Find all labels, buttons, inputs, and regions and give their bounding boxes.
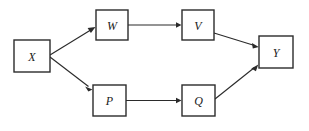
edge-v-to-y-arrowhead	[252, 43, 259, 49]
edge-w-to-v-arrowhead	[176, 22, 182, 27]
node-y[interactable]: Y	[259, 36, 293, 68]
edge-p-to-q	[126, 98, 182, 103]
node-w-label: W	[107, 19, 118, 33]
edge-q-to-y-line	[215, 68, 255, 100]
node-q-label: Q	[194, 94, 203, 108]
edge-q-to-y-arrowhead	[251, 65, 258, 72]
node-w[interactable]: W	[96, 10, 128, 40]
diagram-canvas: X W V Y P Q	[0, 0, 309, 131]
node-p-label: P	[105, 94, 114, 108]
edge-layer	[50, 22, 259, 103]
edge-q-to-y	[215, 65, 258, 100]
edge-v-to-y	[214, 33, 259, 48]
node-x[interactable]: X	[14, 40, 50, 72]
edge-x-to-p-arrowhead	[85, 87, 92, 92]
edge-x-to-w-line	[50, 30, 92, 56]
node-v[interactable]: V	[182, 10, 214, 40]
edge-v-to-y-line	[214, 33, 255, 46]
edge-x-to-w-arrowhead	[88, 27, 96, 33]
node-q[interactable]: Q	[182, 85, 215, 116]
edge-x-to-p	[50, 57, 93, 92]
node-p[interactable]: P	[93, 85, 126, 116]
edge-x-to-w	[50, 27, 96, 55]
node-x-label: X	[27, 50, 36, 64]
edge-x-to-p-line	[50, 57, 89, 87]
edge-w-to-v	[128, 22, 182, 27]
graph-svg: X W V Y P Q	[0, 0, 309, 131]
edge-p-to-q-arrowhead	[176, 98, 182, 103]
